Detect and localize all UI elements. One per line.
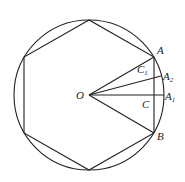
label-A: A <box>156 44 164 56</box>
label-A2: A2 <box>162 70 174 84</box>
segment-OA2 <box>89 76 161 95</box>
label-C: C <box>142 98 150 110</box>
label-A1: A1 <box>164 90 175 104</box>
label-C1: C1 <box>137 63 148 77</box>
geometry-figure: O A A2 A1 C1 C B <box>0 0 185 182</box>
label-O: O <box>76 89 84 101</box>
label-B: B <box>157 130 164 142</box>
